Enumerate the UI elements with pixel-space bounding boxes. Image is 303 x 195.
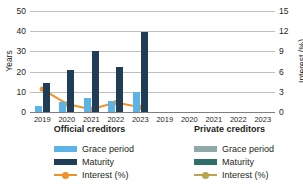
x-tick-label: 2022	[103, 115, 129, 124]
bar-grace-period	[59, 102, 66, 112]
bar-grace-period	[108, 101, 115, 112]
axis-baseline	[30, 112, 275, 113]
legend-item[interactable]: Grace period	[54, 142, 134, 155]
legend-swatch-icon	[54, 159, 77, 165]
x-tick-label: 2019	[29, 115, 55, 124]
x-tick-label: 2023	[127, 115, 153, 124]
y-tick-label-right: 12	[279, 27, 295, 35]
x-tick-label: 2021	[201, 115, 227, 124]
y-tick-label-right: 6	[279, 68, 295, 76]
x-tick-label: 2023	[250, 115, 276, 124]
y-tick-label-left: 40	[10, 27, 26, 35]
bar-grace-period	[84, 98, 91, 112]
legend-line-marker-icon	[54, 170, 77, 179]
bar-maturity	[67, 70, 74, 112]
legend-item-label: Maturity	[82, 157, 114, 167]
bar-maturity	[92, 51, 99, 112]
gridline	[30, 51, 275, 52]
legend-official: Grace periodMaturityInterest (%)	[54, 142, 134, 181]
y-tick-label-right: 15	[279, 7, 295, 15]
y-tick-label-left: 10	[10, 88, 26, 96]
legend-swatch-icon	[194, 159, 217, 165]
legend-item[interactable]: Maturity	[54, 155, 134, 168]
legend-item-label: Maturity	[222, 157, 254, 167]
y-axis-title-right: Interest (%)	[297, 33, 303, 89]
y-tick-label-left: 50	[10, 7, 26, 15]
bar-maturity	[116, 67, 123, 112]
panel-title-official: Official creditors	[22, 124, 157, 134]
x-tick-label: 2021	[78, 115, 104, 124]
y-tick-label-right: 3	[279, 88, 295, 96]
panel-title-private: Private creditors	[162, 124, 297, 134]
y-tick-label-right: 9	[279, 47, 295, 55]
legend-swatch-icon	[54, 146, 77, 152]
legend-item[interactable]: Grace period	[194, 142, 274, 155]
y-tick-label-left: 0	[10, 108, 26, 116]
gridline	[30, 11, 275, 12]
legend-item-label: Interest (%)	[222, 170, 269, 180]
legend-item[interactable]: Interest (%)	[194, 168, 274, 181]
legend-line-marker-icon	[194, 170, 217, 179]
legend-swatch-icon	[194, 146, 217, 152]
y-tick-label-left: 20	[10, 68, 26, 76]
legend-item[interactable]: Maturity	[194, 155, 274, 168]
legend-item-label: Grace period	[82, 144, 134, 154]
x-tick-label: 2022	[225, 115, 251, 124]
legend-item-label: Interest (%)	[82, 170, 129, 180]
x-tick-label: 2020	[54, 115, 80, 124]
y-tick-label-right: 0	[279, 108, 295, 116]
gridline	[30, 31, 275, 32]
legend-item-label: Grace period	[222, 144, 274, 154]
y-tick-label-left: 30	[10, 47, 26, 55]
legend-private: Grace periodMaturityInterest (%)	[194, 142, 274, 181]
bar-maturity	[141, 32, 148, 112]
bar-grace-period	[133, 92, 140, 112]
plot-area	[30, 11, 275, 112]
x-tick-label: 2020	[176, 115, 202, 124]
x-tick-label: 2019	[152, 115, 178, 124]
chart-figure: Years Interest (%) 01020304050 03691215 …	[0, 0, 303, 195]
bar-maturity	[43, 83, 50, 112]
legend-item[interactable]: Interest (%)	[54, 168, 134, 181]
bar-grace-period	[35, 106, 42, 112]
